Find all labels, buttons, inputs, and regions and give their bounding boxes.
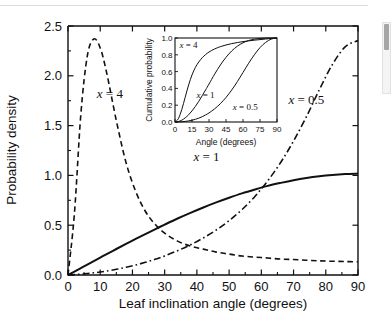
x-tick-label: 50 (222, 279, 236, 294)
inset-y-tick-label: 1.0 (161, 34, 173, 43)
inset-y-tick-label: 0.0 (161, 118, 173, 127)
inset-y-tick-label: 0.4 (161, 84, 173, 93)
x-tick-label: 60 (254, 279, 268, 294)
inset-x-axis-title: Angle (degrees) (196, 137, 257, 147)
inset-x-tick-label: 90 (273, 125, 282, 134)
y-axis-title: Probability density (4, 95, 19, 205)
vertical-scrollbar[interactable] (382, 22, 391, 94)
x-tick-label: 20 (125, 279, 139, 294)
y-tick-label: 1.5 (44, 118, 62, 133)
inset-curve-label-x-0-5: x = 0.5 (232, 102, 258, 112)
curve-x-1 (68, 174, 358, 275)
inset-x-tick-label: 15 (188, 125, 197, 134)
y-tick-label: 2.5 (44, 19, 62, 34)
inset-curve-label-x-4: x = 4 (179, 40, 199, 50)
inset-x-tick-label: 0 (173, 125, 178, 134)
y-tick-label: 0.5 (44, 218, 62, 233)
y-tick-label: 1.0 (44, 168, 62, 183)
inset-y-tick-label: 0.8 (161, 51, 173, 60)
inset-x-tick-label: 75 (256, 125, 265, 134)
curve-label-x-0-5: x = 0.5 (288, 92, 325, 107)
x-tick-label: 10 (93, 279, 107, 294)
inset-y-axis-title: Cumulative probability (144, 37, 154, 121)
x-tick-label: 0 (64, 279, 71, 294)
inset-x-tick-label: 30 (205, 125, 214, 134)
x-tick-label: 80 (319, 279, 333, 294)
y-tick-label: 2.0 (44, 68, 62, 83)
figure-page: 01020304050607080900.00.51.01.52.02.5 Le… (0, 0, 391, 321)
y-tick-label: 0.0 (44, 268, 62, 283)
x-tick-label: 70 (286, 279, 300, 294)
x-tick-label: 30 (157, 279, 171, 294)
x-tick-label: 40 (190, 279, 204, 294)
inset-y-tick-label: 0.2 (161, 101, 173, 110)
chart-svg: 01020304050607080900.00.51.01.52.02.5 Le… (0, 0, 370, 321)
curve-label-x-4: x = 4 (96, 86, 124, 101)
inset-x-tick-label: 45 (222, 125, 231, 134)
inset-curve-label-x-1: x = 1 (196, 90, 215, 100)
scrollbar-thumb[interactable] (384, 24, 389, 50)
probability-density-figure: 01020304050607080900.00.51.01.52.02.5 Le… (0, 0, 370, 321)
curve-label-x-1: x = 1 (192, 149, 219, 164)
inset-y-tick-label: 0.6 (161, 68, 173, 77)
x-tick-label: 90 (351, 279, 365, 294)
inset-x-tick-label: 60 (239, 125, 248, 134)
x-axis-title: Leaf inclination angle (degrees) (119, 296, 307, 311)
